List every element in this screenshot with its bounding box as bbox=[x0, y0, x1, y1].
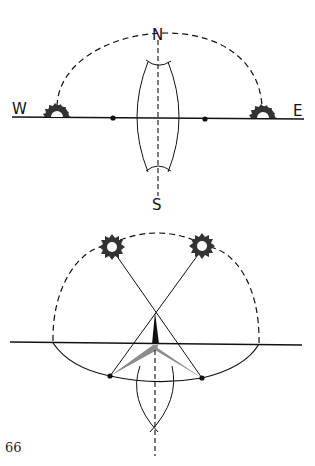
bottom-diagram bbox=[10, 233, 302, 456]
shadow-tip-dot-left bbox=[107, 373, 112, 378]
sunset-west-icon bbox=[43, 103, 71, 117]
page-number: 66 bbox=[5, 440, 22, 455]
bisector-arc-left bbox=[137, 62, 148, 172]
shadow-morning bbox=[110, 345, 158, 376]
marker-dot-left bbox=[110, 115, 115, 120]
label-north: N bbox=[152, 26, 163, 44]
sun-path-arc-lower bbox=[53, 246, 104, 341]
sunrise-east-icon bbox=[249, 104, 277, 118]
label-west: W bbox=[12, 100, 27, 118]
sun-ray-left bbox=[114, 252, 202, 378]
bisector-arc-right-lower bbox=[150, 366, 174, 432]
marker-dot-right bbox=[202, 116, 207, 121]
diagram-canvas: W E N S bbox=[0, 0, 315, 466]
bisector-arc-right bbox=[168, 62, 179, 172]
shadow-tip-dot-right bbox=[199, 375, 204, 380]
label-east: E bbox=[293, 102, 302, 120]
top-diagram: W E N S bbox=[12, 26, 304, 214]
sun-morning-icon bbox=[99, 234, 125, 260]
shadow-afternoon bbox=[153, 345, 202, 378]
label-south: S bbox=[152, 196, 162, 214]
sun-afternoon-icon bbox=[189, 233, 215, 259]
